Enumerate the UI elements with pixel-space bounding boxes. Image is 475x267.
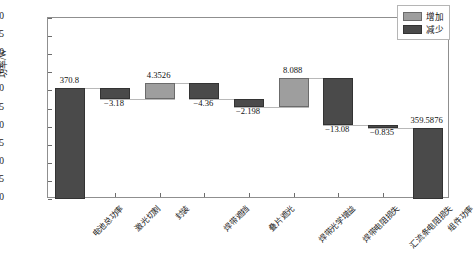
x-tick-mark — [383, 193, 384, 197]
x-tick-mark — [160, 193, 161, 197]
legend: 增加 减少 — [397, 5, 450, 40]
y-tick-label: 345 — [0, 175, 4, 185]
x-tick-mark — [294, 193, 295, 197]
x-tick-mark — [338, 193, 339, 197]
y-tick-mark — [48, 36, 52, 37]
y-tick-label: 340 — [0, 193, 4, 203]
x-tick-label: 焊带遮挡 — [221, 202, 252, 233]
y-tick-label: 390 — [0, 12, 4, 22]
y-tick-label: 370 — [0, 85, 4, 95]
y-tick-mark — [48, 90, 52, 91]
bar-value-label: −0.835 — [352, 128, 412, 137]
bar-decrease — [323, 78, 353, 125]
x-tick-label: 电池总功率 — [89, 202, 126, 239]
x-tick-mark — [115, 193, 116, 197]
bar-value-label: 370.8 — [39, 76, 99, 85]
y-tick-label: 380 — [0, 48, 4, 58]
bar-decrease — [189, 83, 219, 99]
y-tick-label: 375 — [0, 67, 4, 77]
y-tick-mark — [48, 109, 52, 110]
y-tick-mark — [48, 199, 52, 200]
x-tick-label: 封装 — [171, 202, 191, 222]
y-tick-label: 360 — [0, 121, 4, 131]
bar-value-label: 4.3526 — [129, 71, 189, 80]
x-tick-label: 激光切割 — [131, 202, 162, 233]
legend-label-decrease: 减少 — [426, 23, 444, 35]
bar-value-label: −2.198 — [218, 107, 278, 116]
bar-increase — [145, 83, 175, 99]
y-tick-label: 365 — [0, 103, 4, 113]
bar-increase — [279, 78, 309, 107]
bar-value-label: −3.18 — [84, 99, 144, 108]
legend-item-increase: 增加 — [403, 10, 444, 22]
legend-label-increase: 增加 — [426, 10, 444, 22]
y-tick-label: 355 — [0, 139, 4, 149]
y-tick-mark — [48, 127, 52, 128]
x-tick-mark — [204, 193, 205, 197]
legend-swatch-increase-icon — [403, 12, 422, 21]
x-tick-label: 焊带光学增益 — [315, 202, 357, 244]
bar-total — [55, 88, 85, 199]
bar-total — [413, 128, 443, 199]
y-tick-mark — [48, 145, 52, 146]
x-tick-label: 焊带电阻损失 — [359, 202, 401, 244]
y-tick-mark — [48, 163, 52, 164]
legend-item-decrease: 减少 — [403, 23, 444, 35]
x-tick-mark — [249, 193, 250, 197]
y-tick-label: 350 — [0, 157, 4, 167]
bar-value-label: 359.5876 — [397, 116, 457, 125]
y-tick-mark — [48, 72, 52, 73]
y-tick-mark — [48, 54, 52, 55]
y-tick-mark — [48, 18, 52, 19]
y-tick-mark — [48, 181, 52, 182]
bar-value-label: 8.088 — [263, 66, 323, 75]
x-tick-label: 叠片遮光 — [265, 202, 296, 233]
legend-swatch-decrease-icon — [403, 25, 422, 34]
y-tick-label: 385 — [0, 30, 4, 40]
